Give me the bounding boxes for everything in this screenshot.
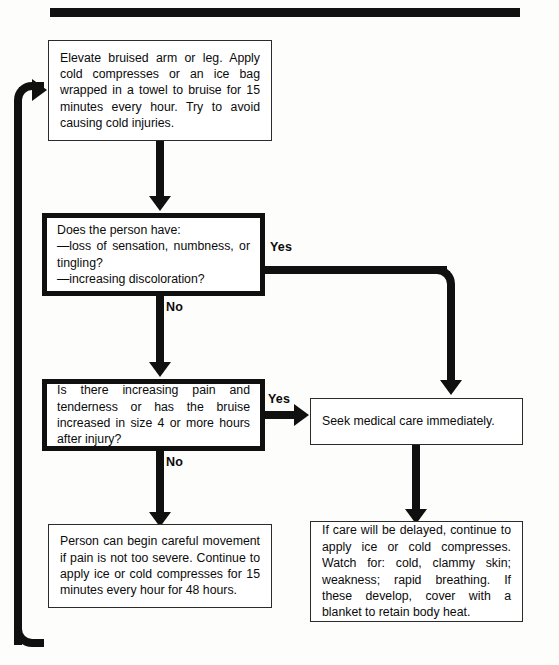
edge-sensation-no-line	[156, 296, 164, 364]
edge-sensation-yes-vertical	[447, 284, 455, 382]
branch-label-sensation-yes: Yes	[270, 240, 292, 254]
node-outcome-seek-care-text: Seek medical care immediately.	[311, 413, 522, 429]
edge-seek-to-delayed-line	[412, 445, 420, 513]
flowchart-page: Elevate bruised arm or leg. Apply cold c…	[0, 0, 559, 665]
edge-sensation-no-arrowhead	[149, 362, 171, 377]
node-decision-sensation-text: Does the person have: —loss of sensation…	[47, 222, 260, 287]
node-outcome-self-care-text: Person can begin careful movement if pai…	[49, 533, 271, 598]
node-outcome-delayed-care: If care will be delayed, continue to app…	[310, 521, 523, 622]
node-outcome-seek-care: Seek medical care immediately.	[310, 398, 523, 445]
edge-pain-no-line	[156, 451, 164, 516]
edge-feedback-loop-vertical	[14, 100, 22, 645]
node-decision-pain-text: Is there increasing pain and tenderness …	[47, 382, 260, 447]
top-rule-divider	[50, 8, 520, 17]
node-outcome-delayed-care-text: If care will be delayed, continue to app…	[311, 522, 522, 620]
node-decision-sensation: Does the person have: —loss of sensation…	[42, 213, 265, 296]
edge-pain-yes-line	[265, 411, 296, 419]
branch-label-pain-yes: Yes	[268, 392, 290, 406]
edge-start-to-sensation-line	[156, 141, 164, 198]
edge-pain-yes-arrowhead	[294, 404, 309, 426]
node-treatment-start: Elevate bruised arm or leg. Apply cold c…	[48, 40, 272, 141]
edge-start-to-sensation-arrowhead	[149, 196, 171, 211]
edge-feedback-loop-arrowhead	[32, 79, 47, 101]
node-outcome-self-care: Person can begin careful movement if pai…	[48, 524, 272, 608]
branch-label-pain-no: No	[166, 455, 183, 469]
node-treatment-start-text: Elevate bruised arm or leg. Apply cold c…	[49, 50, 271, 132]
branch-label-sensation-no: No	[166, 300, 183, 314]
edge-sensation-yes-horizontal	[265, 266, 447, 274]
node-decision-pain: Is there increasing pain and tenderness …	[42, 379, 265, 451]
edge-sensation-yes-arrowhead	[440, 380, 462, 395]
